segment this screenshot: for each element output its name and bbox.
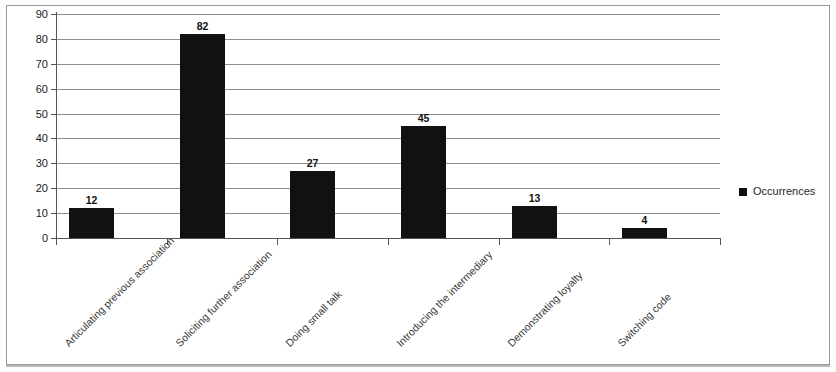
y-axis-tick-label: 20 bbox=[22, 183, 48, 194]
bar bbox=[69, 208, 114, 238]
y-axis-tick-label: 80 bbox=[22, 34, 48, 45]
y-axis-tick-label: 60 bbox=[22, 84, 48, 95]
bar-value-label: 82 bbox=[180, 21, 225, 32]
chart-screenshot: 9080706050403020100 12822745134 Articula… bbox=[0, 0, 836, 372]
x-axis-tick-mark bbox=[277, 239, 278, 245]
bar-value-label: 12 bbox=[69, 195, 114, 206]
bar bbox=[622, 228, 667, 238]
y-axis-tick-label: 0 bbox=[22, 233, 48, 244]
legend-swatch-occurrences bbox=[739, 188, 747, 196]
y-axis-tick-label: 40 bbox=[22, 133, 48, 144]
bar bbox=[290, 171, 335, 238]
plot-area: 12822745134 bbox=[56, 14, 720, 238]
bar-value-label: 13 bbox=[512, 193, 557, 204]
bar-value-label: 45 bbox=[401, 113, 446, 124]
bar-value-label: 27 bbox=[290, 158, 335, 169]
y-axis-tick-label: 30 bbox=[22, 158, 48, 169]
x-axis-tick-mark bbox=[720, 239, 721, 245]
x-axis-tick-mark bbox=[56, 239, 57, 245]
y-axis-tick-label: 10 bbox=[22, 208, 48, 219]
y-axis-tick-label: 70 bbox=[22, 59, 48, 70]
y-axis-tick-label: 50 bbox=[22, 109, 48, 120]
bar bbox=[180, 34, 225, 238]
bar bbox=[401, 126, 446, 238]
y-axis-tick-label: 90 bbox=[22, 9, 48, 20]
bar bbox=[512, 206, 557, 238]
legend-label-occurrences: Occurrences bbox=[753, 186, 815, 197]
bar-value-label: 4 bbox=[622, 215, 667, 226]
x-axis-tick-mark bbox=[609, 239, 610, 245]
x-axis-tick-mark bbox=[499, 239, 500, 245]
chart-legend: Occurrences bbox=[739, 186, 815, 197]
x-axis-tick-mark bbox=[388, 239, 389, 245]
